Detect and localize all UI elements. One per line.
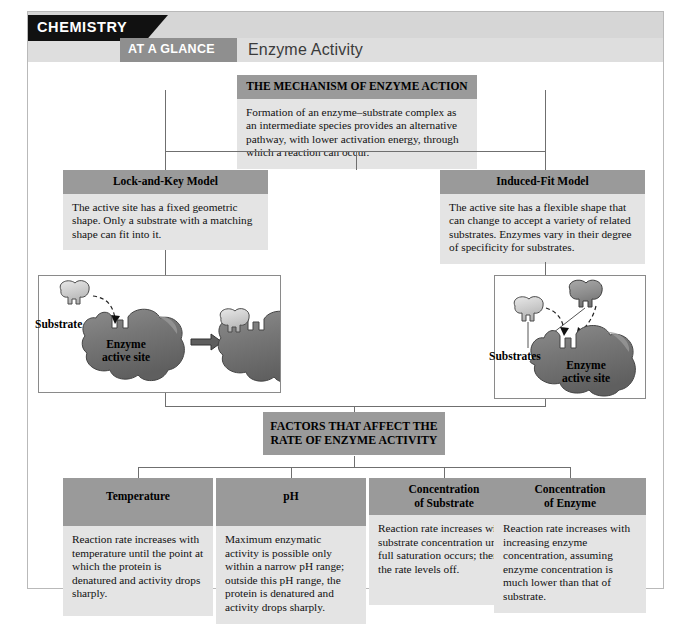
enzyme-label-line1: Enzyme	[86, 338, 166, 351]
lock-and-key-figure	[39, 276, 280, 392]
enzyme-label-line1: Enzyme	[547, 359, 625, 372]
lock-and-key-heading: Lock-and-Key Model	[63, 170, 268, 194]
connector-lock-to-panel	[165, 250, 166, 275]
factor-text: Maximum enzymatic activity is possible o…	[216, 526, 366, 624]
factors-heading-line2: RATE OF ENZYME ACTIVITY	[271, 433, 438, 447]
series-banner-label: CHEMISTRY	[28, 15, 168, 35]
factor-box-enzyme-concentration: Concentration of Enzyme Reaction rate in…	[494, 478, 646, 613]
connector-induced-to-panel	[545, 262, 546, 275]
connector-factor-2	[444, 467, 445, 478]
connector-factor-0	[138, 467, 139, 478]
connector-factor-3	[570, 467, 571, 478]
enzyme-substrate-complex	[218, 309, 280, 383]
induced-fit-illustration: Substrates Enzyme active site	[494, 275, 646, 399]
mechanism-text: Formation of an enzyme–substrate complex…	[237, 99, 477, 169]
factors-heading: FACTORS THAT AFFECT THE RATE OF ENZYME A…	[263, 412, 445, 455]
connector-left-panel-down	[165, 393, 166, 406]
page-title: Enzyme Activity	[248, 38, 363, 62]
lock-and-key-box: Lock-and-Key Model The active site has a…	[63, 170, 268, 250]
mechanism-box: THE MECHANISM OF ENZYME ACTION Formation…	[237, 75, 477, 169]
factors-box: FACTORS THAT AFFECT THE RATE OF ENZYME A…	[263, 412, 445, 455]
factor-heading-line1: Temperature	[106, 490, 170, 502]
connector-right-panel-down	[545, 399, 546, 406]
connector-left-branch-down	[165, 151, 166, 170]
factor-text: Reaction rate increases with temperature…	[63, 526, 213, 616]
enzyme-label-line2: active site	[543, 372, 629, 385]
lock-and-key-text: The active site has a fixed geometric sh…	[63, 194, 268, 251]
induced-fit-text: The active site has a flexible shape tha…	[440, 194, 645, 264]
induced-fit-box: Induced-Fit Model The active site has a …	[440, 170, 645, 264]
connector-bus-top	[165, 151, 545, 152]
lock-and-key-illustration: Substrate Enzyme active site	[38, 275, 281, 393]
enzyme-label-line2: active site	[82, 351, 170, 364]
mechanism-heading: THE MECHANISM OF ENZYME ACTION	[237, 75, 477, 99]
factor-heading-line1: pH	[283, 490, 298, 502]
substrate-shape	[60, 281, 89, 304]
factor-heading-line1: Concentration	[535, 483, 606, 495]
factor-heading: Temperature	[63, 478, 213, 526]
factor-box-ph: pH Maximum enzymatic activity is possibl…	[216, 478, 366, 624]
connector-mechanism-stub	[356, 151, 357, 170]
connector-right-branch-down	[545, 151, 546, 170]
connector-bus-bottom	[138, 467, 570, 468]
substrate-label: Substrate	[35, 318, 82, 331]
factor-heading-line2: of Substrate	[414, 497, 474, 509]
at-a-glance-page: CHEMISTRY AT A GLANCE Enzyme Activity TH…	[0, 0, 692, 625]
at-a-glance-tab: AT A GLANCE	[120, 38, 237, 62]
connector-factor-1	[291, 467, 292, 478]
substrates-label: Substrates	[489, 350, 541, 363]
factor-box-temperature: Temperature Reaction rate increases with…	[63, 478, 213, 616]
factors-heading-line1: FACTORS THAT AFFECT THE	[270, 419, 437, 433]
factor-text: Reaction rate increases with increasing …	[494, 515, 646, 613]
reaction-arrow	[191, 334, 222, 350]
factor-heading: pH	[216, 478, 366, 526]
at-a-glance-label: AT A GLANCE	[120, 38, 237, 56]
connector-factors-stub	[354, 456, 355, 467]
factor-heading-line1: Concentration	[409, 483, 480, 495]
connector-right-branch-up	[545, 90, 546, 152]
factor-heading-line2: of Enzyme	[544, 497, 596, 509]
substrate-a-shape	[514, 297, 543, 321]
factor-heading: Concentration of Enzyme	[494, 478, 646, 515]
connector-bus-mid	[165, 406, 546, 407]
connector-left-branch-up	[165, 90, 166, 152]
induced-fit-heading: Induced-Fit Model	[440, 170, 645, 194]
substrate-b-shape	[569, 280, 602, 307]
